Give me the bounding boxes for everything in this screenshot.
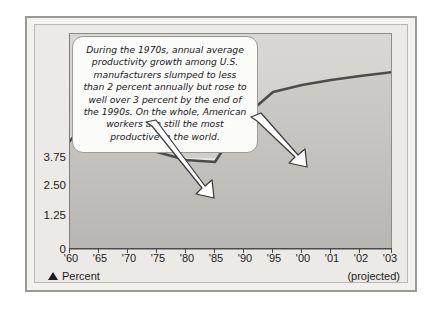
y-tick-label-3: 3.75: [26, 151, 66, 163]
chart-unit-legend: Percent: [48, 270, 100, 282]
y-tick-label-0: 0: [26, 243, 66, 255]
triangle-up-icon: [48, 272, 58, 280]
y-tick-label-2: 2.50: [26, 179, 66, 191]
chart-unit-label: Percent: [62, 270, 100, 282]
chart-callout-text: During the 1970s, annual average product…: [82, 44, 248, 143]
figure-root: 3.75 2.50 1.25 0 '60 '65 '70 '75 '80 '85…: [0, 0, 442, 318]
chart-projected-note: (projected): [347, 270, 400, 282]
chart-callout-bubble: During the 1970s, annual average product…: [72, 36, 258, 153]
chart-x-tickmarks: [69, 248, 395, 255]
y-tick-label-1: 1.25: [26, 209, 66, 221]
